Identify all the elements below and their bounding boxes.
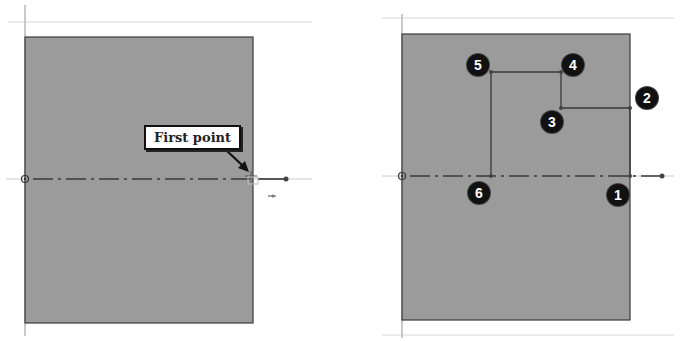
- vertex-4[interactable]: [559, 70, 563, 74]
- vertex-6[interactable]: [489, 174, 493, 178]
- point-badge-5: 5: [467, 54, 489, 76]
- vertex-1[interactable]: [628, 174, 632, 178]
- point-badge-2: 2: [636, 87, 658, 109]
- right-sketch-panel: 1 2 3 4 5 6: [342, 0, 684, 341]
- sketch-rectangle[interactable]: [25, 37, 253, 323]
- vertex-5[interactable]: [489, 70, 493, 74]
- vertex-2[interactable]: [628, 106, 632, 110]
- right-sketch-canvas: [342, 0, 684, 341]
- sketch-rectangle[interactable]: [402, 34, 630, 320]
- point-badge-6: 6: [468, 182, 490, 204]
- point-badge-4: 4: [562, 54, 584, 76]
- vertex-3[interactable]: [559, 106, 563, 110]
- left-sketch-canvas: [0, 0, 342, 341]
- point-badge-3: 3: [541, 111, 563, 133]
- left-sketch-panel: First point: [0, 0, 342, 341]
- centerline-endpoint[interactable]: [660, 174, 665, 179]
- centerline-endpoint[interactable]: [284, 177, 289, 182]
- cursor-hint-icon: [268, 195, 276, 198]
- point-badge-1: 1: [607, 184, 629, 206]
- first-point-callout: First point: [144, 125, 241, 150]
